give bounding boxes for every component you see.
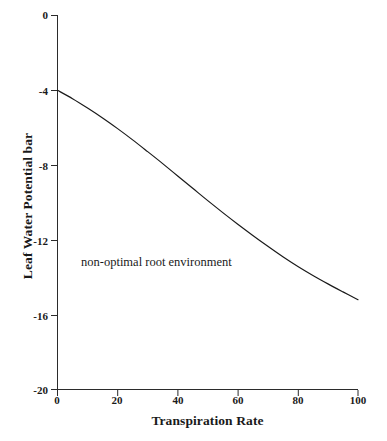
plot-area — [0, 0, 387, 441]
y-tick-label-2: -8 — [8, 160, 48, 172]
x-tick-label-2: 40 — [158, 394, 198, 406]
chart-figure: Leaf Water Potential bar Transpiration R… — [0, 0, 387, 441]
y-axis-title: Leaf Water Potential bar — [20, 106, 36, 306]
y-tick-label-0: 0 — [8, 9, 48, 21]
x-tick-label-0: 0 — [37, 394, 77, 406]
y-tick-label-3: -12 — [8, 235, 48, 247]
x-tick-label-1: 20 — [97, 394, 137, 406]
y-tick-label-4: -16 — [8, 310, 48, 322]
plot-annotation-non-optimal-root-environment: non-optimal root environment — [81, 255, 232, 270]
y-tick-marks — [51, 16, 57, 390]
x-tick-label-4: 80 — [278, 394, 318, 406]
x-axis-title: Transpiration Rate — [57, 413, 358, 429]
x-tick-label-3: 60 — [218, 394, 258, 406]
x-tick-label-5: 100 — [338, 394, 378, 406]
y-tick-label-1: -4 — [8, 85, 48, 97]
